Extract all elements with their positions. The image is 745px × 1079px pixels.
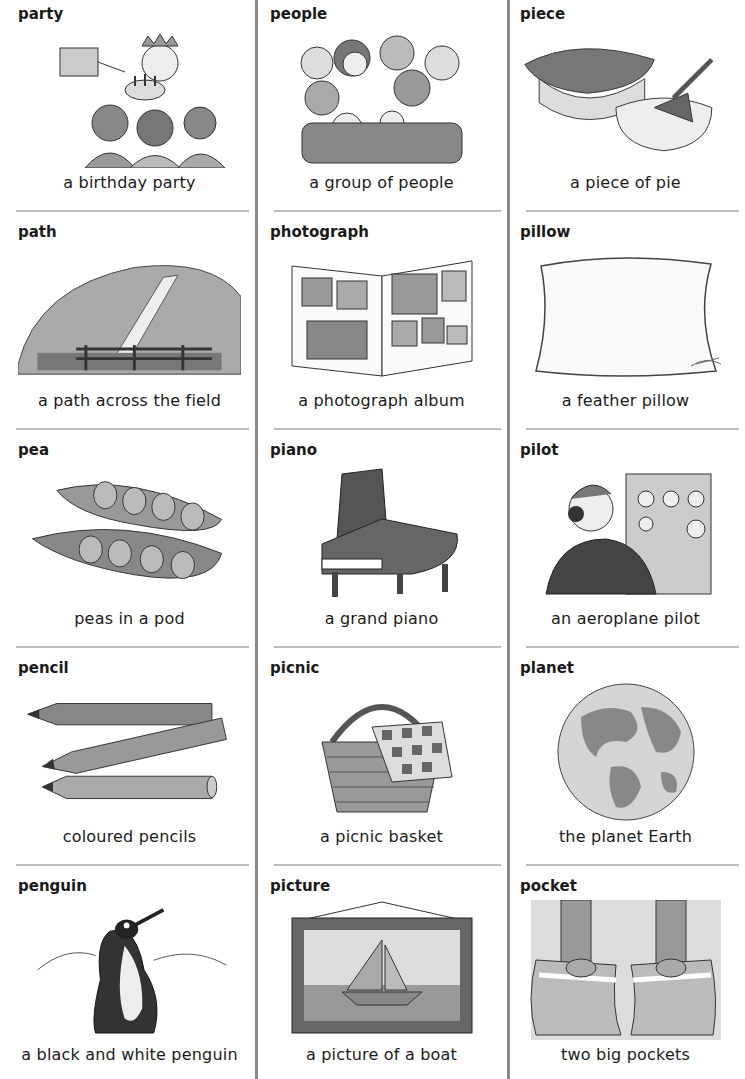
caption: a photograph album [270,390,493,412]
pilot-illustration [520,460,731,608]
column-3: piece a piece of pie pillow [510,0,745,1079]
picture-dictionary-page: party a [0,0,745,1079]
headword: planet [520,658,731,678]
headword: pea [18,440,241,460]
birthday-party-illustration [18,24,241,172]
entry-picnic: picnic [258,654,507,872]
caption: a black and white penguin [18,1044,241,1066]
entry-pilot: pilot an aeroplane pilot [510,436,745,654]
group-of-people-illustration [270,24,493,172]
caption: a picnic basket [270,826,493,848]
caption: an aeroplane pilot [520,608,731,630]
column-1: party a [0,0,258,1079]
headword: pencil [18,658,241,678]
headword: people [270,4,493,24]
penguin-illustration [18,896,241,1044]
headword: photograph [270,222,493,242]
headword: picnic [270,658,493,678]
headword: pillow [520,222,731,242]
pillow-illustration [520,242,731,390]
photo-album-illustration [270,242,493,390]
headword: penguin [18,876,241,896]
entry-pea: pea peas in a pod [0,436,255,654]
headword: pilot [520,440,731,460]
column-2: people a group of people photograph [258,0,510,1079]
caption: two big pockets [520,1044,731,1066]
headword: pocket [520,876,731,896]
caption: a grand piano [270,608,493,630]
caption: a picture of a boat [270,1044,493,1066]
entry-pillow: pillow a feather pillow [510,218,745,436]
headword: path [18,222,241,242]
entry-photograph: photograph a photograph album [258,218,507,436]
caption: a piece of pie [520,172,731,194]
caption: a feather pillow [520,390,731,412]
caption: a path across the field [18,390,241,412]
headword: picture [270,876,493,896]
grand-piano-illustration [270,460,493,608]
entry-picture: picture a picture of a boat [258,872,507,1079]
pie-illustration [520,24,731,172]
pockets-illustration [520,896,731,1044]
entry-piano: piano a grand piano [258,436,507,654]
entry-pencil: pencil coloured pencils [0,654,255,872]
boat-picture-illustration [270,896,493,1044]
caption: peas in a pod [18,608,241,630]
entry-people: people a group of people [258,0,507,218]
entry-planet: planet the planet Earth [510,654,745,872]
pencils-illustration [18,678,241,826]
caption: coloured pencils [18,826,241,848]
field-path-illustration [18,242,241,390]
picnic-basket-illustration [270,678,493,826]
entry-party: party a [0,0,255,218]
earth-illustration [520,678,731,826]
entry-pocket: pocket two big pockets [510,872,745,1079]
entry-penguin: penguin a black and white penguin [0,872,255,1079]
headword: piece [520,4,731,24]
headword: party [18,4,241,24]
caption: a birthday party [18,172,241,194]
caption: the planet Earth [520,826,731,848]
pea-pod-illustration [18,460,241,608]
caption: a group of people [270,172,493,194]
headword: piano [270,440,493,460]
entry-path: path a path across the field [0,218,255,436]
entry-piece: piece a piece of pie [510,0,745,218]
